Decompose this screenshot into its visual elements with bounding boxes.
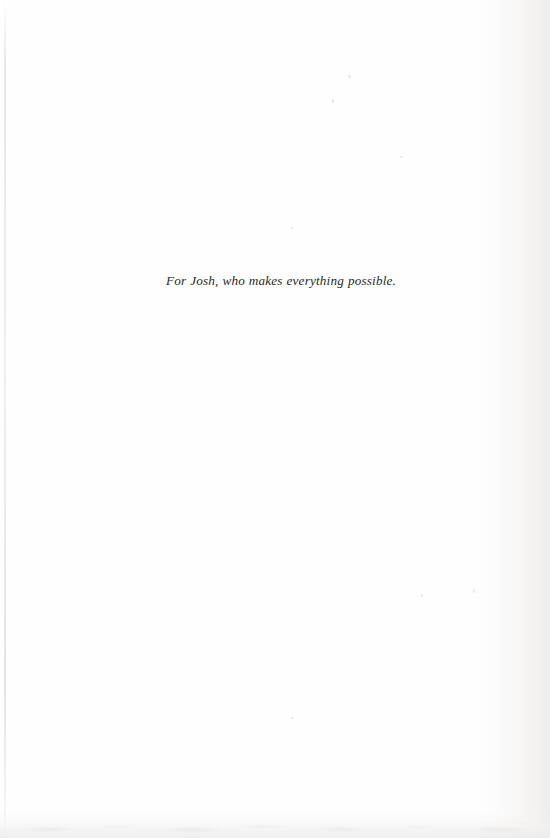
dedication-page: For Josh, who makes everything possible. (0, 0, 550, 838)
scan-dust-speck (348, 75, 351, 78)
scan-dust-speck (400, 156, 403, 158)
scan-bottom-speckle (0, 822, 550, 834)
scan-dust-speck (473, 589, 475, 593)
scan-dust-speck (291, 227, 293, 229)
scan-bottom-shadow-band (0, 812, 550, 838)
dedication-block: For Josh, who makes everything possible. (0, 271, 550, 289)
scan-dust-speck (421, 594, 423, 597)
scan-dust-speck (332, 99, 334, 103)
dedication-text: For Josh, who makes everything possible. (166, 272, 396, 289)
scan-right-edge-shadow (480, 0, 550, 838)
scan-left-edge-line (4, 0, 6, 838)
scan-dust-speck (291, 717, 294, 719)
